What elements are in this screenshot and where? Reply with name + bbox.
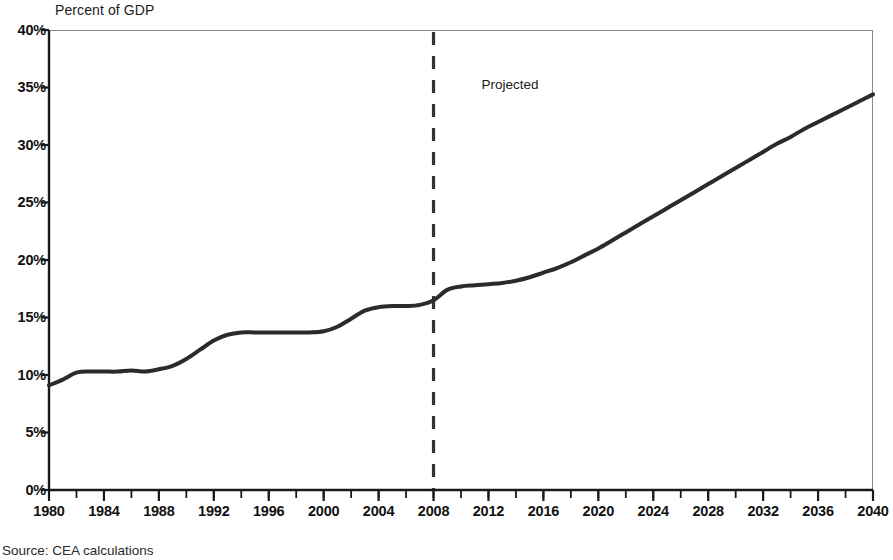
x-tick-label: 2012 <box>473 503 504 519</box>
x-tick-label: 2040 <box>857 503 888 519</box>
x-tick-label: 2000 <box>308 503 339 519</box>
chart-canvas <box>0 0 893 560</box>
data-series-line <box>49 94 873 385</box>
x-axis-minor-ticks <box>49 490 873 498</box>
x-tick-label: 1988 <box>143 503 174 519</box>
x-tick-label: 2024 <box>638 503 669 519</box>
source-note: Source: CEA calculations <box>2 543 154 558</box>
x-tick-label: 1992 <box>198 503 229 519</box>
x-tick-label: 2028 <box>692 503 723 519</box>
chart-figure: Percent of GDP 40% 35% 30% 25% 20% 15% 1… <box>0 0 893 560</box>
x-tick-label: 2020 <box>583 503 614 519</box>
x-tick-label: 1996 <box>253 503 284 519</box>
x-tick-label: 2004 <box>363 503 394 519</box>
x-tick-label: 1984 <box>88 503 119 519</box>
x-tick-label: 2032 <box>747 503 778 519</box>
x-tick-label: 2016 <box>528 503 559 519</box>
x-tick-label: 2008 <box>418 503 449 519</box>
x-tick-label: 2036 <box>802 503 833 519</box>
x-tick-label: 1980 <box>33 503 64 519</box>
plot-frame <box>49 31 873 491</box>
projected-annotation-label: Projected <box>482 77 539 92</box>
